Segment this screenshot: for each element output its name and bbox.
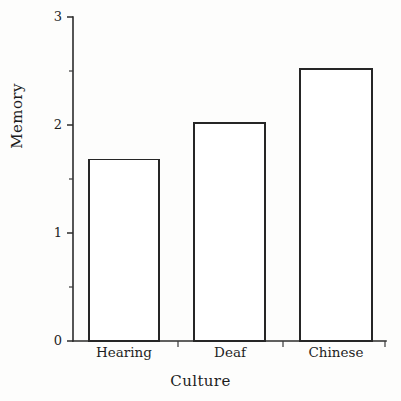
y-tick-label-3: 3	[40, 10, 62, 23]
y-tick-label-0: 0	[40, 334, 62, 347]
bar-chinese	[300, 69, 372, 341]
y-tick-label-1: 1	[40, 226, 62, 239]
x-axis-title: Culture	[0, 372, 401, 390]
x-tick-label-chinese: Chinese	[296, 345, 376, 360]
bar-chart-figure: 3 2 1 0 Hearing Deaf Chinese Culture Mem…	[0, 0, 401, 401]
bar-hearing	[89, 160, 159, 341]
y-tick-label-2: 2	[40, 118, 62, 131]
bar-deaf	[194, 123, 265, 341]
x-tick-label-deaf: Deaf	[190, 345, 270, 360]
y-axis-title: Memory	[8, 51, 26, 181]
x-tick-label-hearing: Hearing	[84, 345, 164, 360]
